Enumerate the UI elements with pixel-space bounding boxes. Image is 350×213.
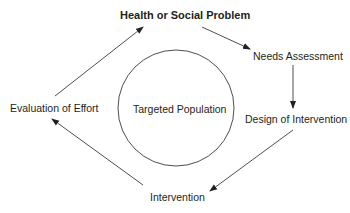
- arrow-problem-to-needs: [202, 27, 250, 49]
- cycle-diagram: Health or Social Problem Needs Assessmen…: [0, 0, 350, 213]
- node-intervention: Intervention: [150, 191, 205, 203]
- arrow-evaluation-to-problem: [55, 27, 143, 96]
- center-targeted-population: Targeted Population: [133, 103, 226, 115]
- node-evaluation-of-effort: Evaluation of Effort: [10, 102, 99, 114]
- arrow-intervention-to-evaluation: [52, 119, 143, 185]
- node-design-of-intervention: Design of Intervention: [245, 113, 347, 125]
- node-needs-assessment: Needs Assessment: [253, 50, 343, 62]
- arrow-design-to-intervention: [210, 130, 293, 191]
- node-health-or-social-problem: Health or Social Problem: [120, 9, 250, 21]
